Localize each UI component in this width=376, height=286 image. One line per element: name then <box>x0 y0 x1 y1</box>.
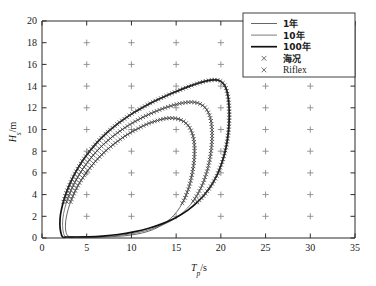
x-tick-label: 0 <box>40 242 45 253</box>
legend-label: 100年 <box>283 41 311 52</box>
y-tick-label: 12 <box>27 102 37 113</box>
x-axis-title: Tp/s <box>191 262 207 278</box>
x-tick-label: 20 <box>216 242 226 253</box>
y-tick-label: 18 <box>27 37 37 48</box>
x-tick-label: 30 <box>305 242 315 253</box>
environmental-contour-chart: 0510152025303502468101214161820 Hs/m Tp/… <box>0 0 376 286</box>
y-axis-title: Hs/m <box>7 121 23 143</box>
y-tick-label: 4 <box>32 189 37 200</box>
x-tick-label: 5 <box>84 242 89 253</box>
y-tick-label: 8 <box>32 146 37 157</box>
x-tick-label: 25 <box>261 242 271 253</box>
legend-label: Riflex <box>283 65 307 75</box>
x-tick-label: 35 <box>350 242 360 253</box>
contour-2 <box>63 102 213 237</box>
contour-curves <box>60 80 229 238</box>
y-tick-label: 20 <box>27 15 37 26</box>
data-point-markers <box>62 78 232 205</box>
x-tick-label: 10 <box>126 242 136 253</box>
y-tick-label: 16 <box>27 59 37 70</box>
chart-legend: 1年10年100年海况Riflex <box>243 13 355 77</box>
legend-label: 海况 <box>283 53 301 64</box>
svg-text:Tp/s: Tp/s <box>191 262 207 278</box>
y-tick-label: 10 <box>27 124 37 135</box>
chart-svg: 0510152025303502468101214161820 Hs/m Tp/… <box>0 0 376 286</box>
contour-3 <box>60 80 229 238</box>
y-tick-label: 0 <box>32 232 37 243</box>
y-tick-label: 2 <box>32 211 37 222</box>
x-tick-label: 15 <box>171 242 181 253</box>
legend-label: 1年 <box>283 18 298 29</box>
y-tick-label: 14 <box>27 81 37 92</box>
svg-text:Hs/m: Hs/m <box>7 121 23 143</box>
contour-1 <box>65 118 194 237</box>
legend-label: 10年 <box>283 30 305 41</box>
y-tick-label: 6 <box>32 167 37 178</box>
